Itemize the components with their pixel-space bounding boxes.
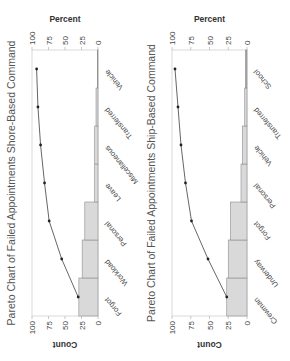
- cumulative-point: [60, 258, 63, 261]
- bar-forgot: [231, 202, 248, 240]
- cumulative-point: [174, 68, 177, 71]
- percent-axis-title: Percent: [194, 14, 225, 24]
- chart-title: Pareto Chart of Failed Appointments Shor…: [5, 40, 17, 325]
- percent-tick-label: 75: [45, 36, 54, 45]
- chart-svg-shore: Pareto Chart of Failed Appointments Shor…: [0, 0, 145, 361]
- category-label: Transferred: [103, 106, 135, 141]
- count-tick-label: 75: [45, 320, 54, 329]
- chart-title: Pareto Chart of Failed Appointments Ship…: [145, 44, 157, 322]
- count-axis-title: Count: [197, 340, 222, 350]
- count-tick-label: 75: [187, 320, 196, 329]
- bar-vehicle: [243, 126, 248, 164]
- cumulative-point: [180, 144, 183, 147]
- percent-tick-label: 0: [243, 40, 252, 45]
- count-tick-label: 50: [206, 320, 215, 329]
- bar-forgot: [79, 278, 98, 316]
- cumulative-point: [177, 106, 180, 109]
- bar-underway: [228, 240, 247, 278]
- cumulative-point: [35, 68, 38, 71]
- category-label: Workload: [103, 258, 130, 288]
- cumulative-percent-line: [175, 69, 227, 297]
- count-tick-label: 100: [168, 320, 177, 334]
- category-label: School: [251, 67, 273, 91]
- bar-workload: [82, 240, 98, 278]
- category-label: Miscellaneous: [102, 144, 140, 186]
- bar-vehicle: [97, 50, 98, 88]
- percent-tick-label: 75: [187, 36, 196, 45]
- cumulative-point: [43, 182, 46, 185]
- count-tick-label: 0: [94, 320, 103, 325]
- count-tick-label: 25: [78, 320, 87, 329]
- cumulative-percent-line: [37, 69, 79, 297]
- category-label: Forgot: [251, 219, 272, 242]
- bar-transferred: [96, 88, 98, 126]
- cumulative-point: [190, 220, 193, 223]
- bar-leave: [95, 164, 98, 202]
- category-label: Vehicle: [103, 68, 125, 92]
- pareto-chart-ship-based: Pareto Chart of Failed Appointments Ship…: [145, 0, 290, 361]
- percent-axis-title: Percent: [49, 14, 80, 24]
- cumulative-point: [39, 144, 42, 147]
- percent-tick-label: 50: [61, 36, 70, 45]
- chart-svg-ship: Pareto Chart of Failed Appointments Ship…: [145, 0, 290, 361]
- category-label: Personal: [251, 181, 277, 210]
- category-label: Personal: [102, 219, 128, 248]
- cumulative-point: [37, 106, 40, 109]
- percent-tick-label: 100: [28, 31, 37, 45]
- bar-transferred: [245, 88, 247, 126]
- cumulative-point: [77, 296, 80, 299]
- bar-crewman: [227, 278, 247, 316]
- percent-tick-label: 50: [206, 36, 215, 45]
- cumulative-point: [184, 182, 187, 185]
- category-label: Crewman: [252, 296, 280, 326]
- count-tick-label: 0: [243, 320, 252, 325]
- percent-tick-label: 25: [78, 36, 87, 45]
- count-tick-label: 25: [224, 320, 233, 329]
- bar-school: [246, 50, 248, 88]
- bar-personal: [241, 164, 247, 202]
- category-label: Underway: [251, 258, 280, 290]
- cumulative-point: [207, 258, 210, 261]
- category-label: Forgot: [102, 295, 123, 318]
- count-tick-label: 100: [28, 320, 37, 334]
- percent-tick-label: 25: [224, 36, 233, 45]
- pareto-chart-shore-based: Pareto Chart of Failed Appointments Shor…: [0, 0, 145, 361]
- count-axis-title: Count: [53, 340, 78, 350]
- cumulative-point: [48, 220, 51, 223]
- category-label: Leave: [103, 182, 123, 203]
- bar-miscellaneous: [95, 126, 98, 164]
- category-label: Transferred: [252, 106, 284, 141]
- percent-tick-label: 0: [94, 40, 103, 45]
- category-label: Vehicle: [252, 144, 274, 168]
- bar-personal: [85, 202, 98, 240]
- count-tick-label: 50: [61, 320, 70, 329]
- cumulative-point: [225, 296, 228, 299]
- percent-tick-label: 100: [168, 31, 177, 45]
